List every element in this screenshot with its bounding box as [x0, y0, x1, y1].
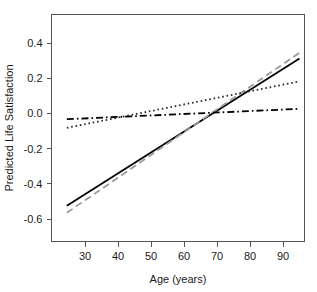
y-tick-label: -0.4 — [24, 178, 43, 190]
x-tick-label: 30 — [79, 250, 91, 262]
y-axis-tick-labels: 0.40.20.0-0.2-0.4-0.6 — [24, 37, 43, 225]
y-tick-label: 0.0 — [27, 107, 42, 119]
y-axis-ticks — [47, 43, 52, 219]
series-solid-line — [67, 58, 300, 205]
x-tick-label: 90 — [277, 250, 289, 262]
plot-box-frame — [52, 15, 305, 242]
x-tick-label: 70 — [211, 250, 223, 262]
series-dash-dot-line — [67, 109, 300, 119]
x-axis-title: Age (years) — [150, 273, 207, 285]
x-axis-ticks — [85, 242, 283, 247]
chart-plot-area: 30405060708090 0.40.20.0-0.2-0.4-0.6 Age… — [0, 0, 317, 292]
x-tick-label: 80 — [244, 250, 256, 262]
y-tick-label: -0.6 — [24, 213, 43, 225]
y-tick-label: -0.2 — [24, 143, 43, 155]
x-axis-tick-labels: 30405060708090 — [79, 250, 289, 262]
series-dotted-line — [67, 81, 300, 127]
series-group — [67, 53, 300, 213]
chart-figure: 30405060708090 0.40.20.0-0.2-0.4-0.6 Age… — [0, 0, 317, 292]
x-tick-label: 60 — [178, 250, 190, 262]
x-tick-label: 50 — [145, 250, 157, 262]
y-tick-label: 0.4 — [27, 37, 42, 49]
y-axis-title: Predicted Life Satisfaction — [3, 64, 15, 191]
x-tick-label: 40 — [112, 250, 124, 262]
y-tick-label: 0.2 — [27, 72, 42, 84]
